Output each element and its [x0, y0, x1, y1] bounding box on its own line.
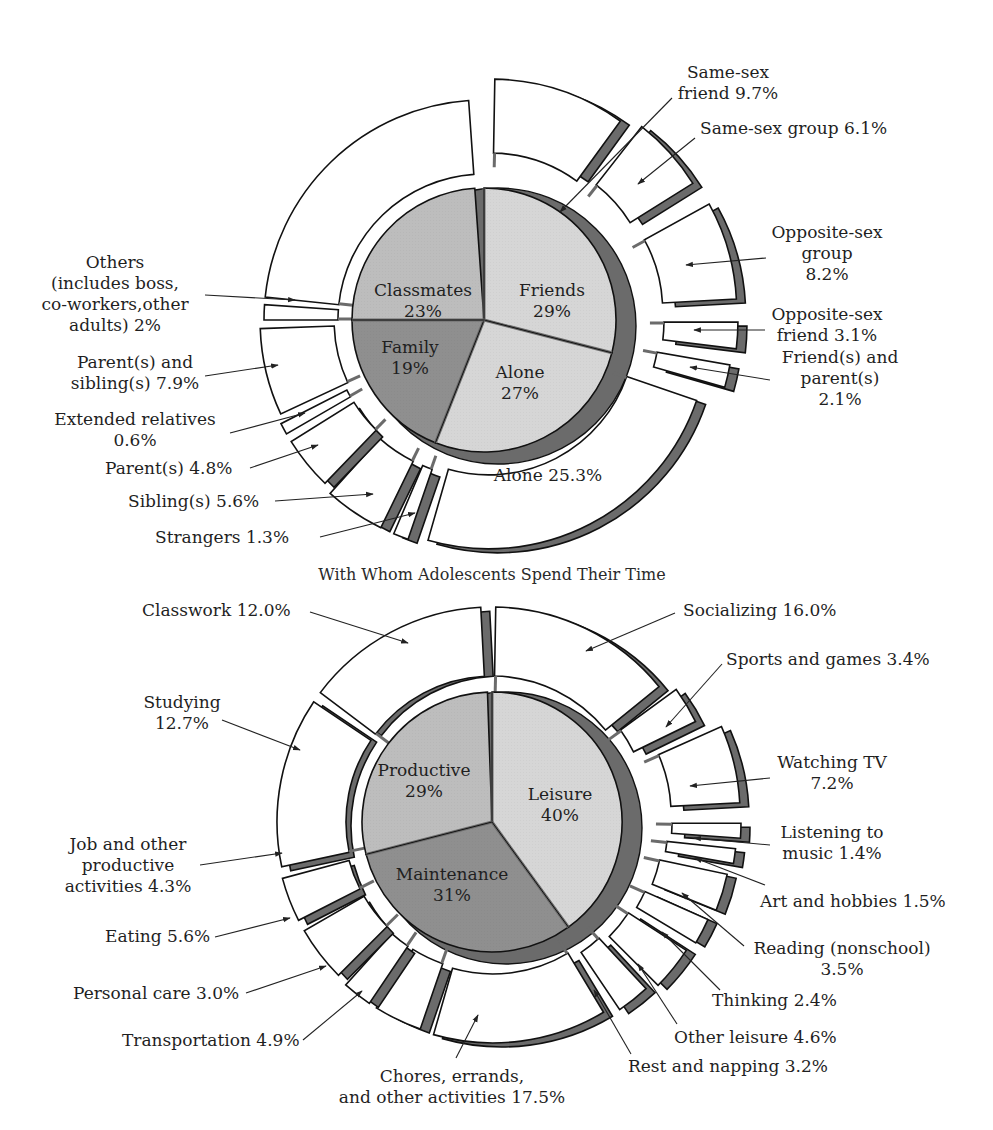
callout-label: Chores, errands,and other activities 17.… — [339, 1066, 565, 1107]
callout-label: Other leisure 4.6% — [674, 1027, 837, 1047]
callout-label: Same-sex group 6.1% — [700, 118, 887, 138]
chart-caption: With Whom Adolescents Spend Their Time — [318, 565, 665, 584]
callout-label: Watching TV7.2% — [777, 752, 887, 793]
wedge-connector — [376, 419, 386, 429]
callout-label: Opposite-sexgroup8.2% — [771, 222, 883, 284]
wedge-connector — [431, 456, 436, 469]
callout-label: Eating 5.6% — [105, 926, 210, 946]
callout-label: Sibling(s) 5.6% — [128, 491, 259, 511]
callout-label: Extended relatives0.6% — [54, 409, 215, 450]
callout-label: Opposite-sexfriend 3.1% — [771, 304, 883, 345]
callout-label: Socializing 16.0% — [683, 600, 836, 620]
callout-label: Listening tomusic 1.4% — [780, 822, 883, 863]
callout-label: Studying12.7% — [143, 692, 220, 733]
callout-label: Same-sexfriend 9.7% — [678, 62, 778, 103]
leader-arrow-icon — [246, 966, 326, 993]
wedge-connector — [442, 948, 447, 963]
outer-wedge-others-includes-boss-co-workers-other-adults — [264, 305, 352, 320]
wedge-connector — [350, 389, 362, 396]
wedge-connector — [651, 841, 667, 843]
callout-alone-25-3: Alone 25.3% — [493, 465, 602, 485]
wedge-connector — [644, 858, 660, 861]
callout-label: Alone 25.3% — [493, 465, 602, 485]
leader-arrow-icon — [586, 613, 675, 651]
wedge-connector — [643, 351, 657, 354]
callout-label: Thinking 2.4% — [712, 990, 837, 1010]
callout-others-includes-boss-co-workers-other-adults-2: Others(includes boss,co-workers,otheradu… — [41, 252, 295, 335]
figure-canvas: Friends29%Alone27%Family19%Classmates23%… — [0, 0, 993, 1130]
leader-arrow-icon — [303, 991, 362, 1040]
chart-who: Friends29%Alone27%Family19%Classmates23%… — [41, 62, 898, 553]
callout-job-and-other-productive-activities-4-3: Job and otherproductiveactivities 4.3% — [65, 834, 282, 896]
callout-sports-and-games-3-4: Sports and games 3.4% — [666, 649, 930, 727]
leader-arrow-icon — [215, 918, 290, 937]
callout-label: Parent(s) 4.8% — [105, 458, 232, 478]
callout-parent-s-and-sibling-s-7-9: Parent(s) andsibling(s) 7.9% — [71, 352, 278, 393]
callout-label: Rest and napping 3.2% — [628, 1056, 828, 1076]
wedge-connector — [347, 376, 360, 382]
callout-label: Strangers 1.3% — [155, 527, 289, 547]
wedge-connector — [588, 186, 597, 197]
callout-label: Classwork 12.0% — [142, 600, 291, 620]
outer-wedge-studying — [277, 702, 377, 871]
wedge-connector — [630, 886, 645, 893]
callout-eating-5-6: Eating 5.6% — [105, 918, 290, 946]
callout-label: Reading (nonschool)3.5% — [753, 938, 930, 979]
wedge-connector — [360, 881, 374, 888]
wedge-connector — [412, 448, 418, 461]
callout-label: Job and otherproductiveactivities 4.3% — [65, 834, 192, 896]
wedge-face — [663, 322, 738, 349]
callout-socializing-16-0: Socializing 16.0% — [586, 600, 836, 651]
wedge-connector — [615, 905, 628, 914]
wedge-connector — [407, 932, 416, 945]
wedge-face — [494, 79, 621, 181]
callout-studying-12-7: Studying12.7% — [143, 692, 300, 750]
chart-activities: Leisure40%Maintenance31%Productive29%Soc… — [65, 600, 946, 1107]
callout-classwork-12-0: Classwork 12.0% — [142, 600, 408, 643]
callout-label: Friend(s) andparent(s)2.1% — [782, 347, 899, 409]
wedge-connector — [608, 731, 621, 740]
callout-label: Parent(s) andsibling(s) 7.9% — [71, 352, 199, 393]
wedge-face — [264, 305, 338, 320]
wedge-face — [672, 823, 741, 838]
outer-wedge-opposite-sex-friend — [650, 322, 747, 353]
outer-wedge-same-sex-friend — [494, 79, 630, 182]
leader-arrow-icon — [310, 612, 408, 643]
callout-personal-care-3-0: Personal care 3.0% — [73, 966, 326, 1003]
leader-arrow-icon — [222, 720, 300, 750]
inner-label-alone: Alone27% — [495, 362, 545, 403]
wedge-connector — [644, 756, 659, 762]
callout-label: Others(includes boss,co-workers,otheradu… — [41, 252, 189, 335]
wedge-connector — [339, 304, 353, 306]
callout-label: Sports and games 3.4% — [726, 649, 930, 669]
wedge-connector — [633, 241, 645, 248]
callout-label: Art and hobbies 1.5% — [759, 891, 946, 911]
callout-label: Transportation 4.9% — [122, 1030, 300, 1050]
leader-arrow-icon — [200, 853, 282, 865]
outer-wedge-friend-s-and-parent-s — [643, 351, 739, 392]
wedge-connector — [386, 914, 397, 925]
wedge-face — [654, 352, 730, 387]
callout-extended-relatives-0-6: Extended relatives0.6% — [54, 409, 305, 450]
callout-label: Personal care 3.0% — [73, 983, 239, 1003]
